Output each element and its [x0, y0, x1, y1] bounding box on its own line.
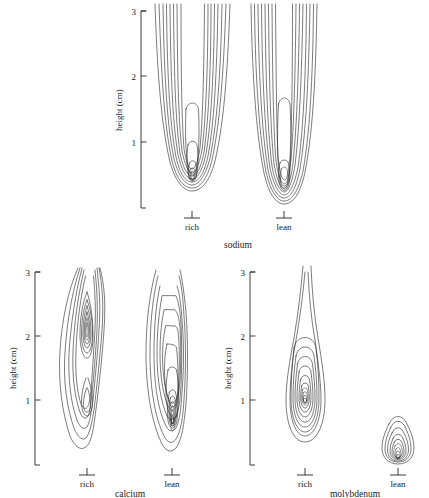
sodium-group-label-lean: lean: [277, 222, 292, 232]
calcium-lean-contours: [146, 270, 188, 451]
molybdenum-lean-contours: [382, 417, 414, 465]
calcium-ytick-label-3: 3: [26, 268, 31, 278]
calcium-y-axis-title: height (cm): [8, 347, 18, 389]
ytick-label-2: 2: [132, 72, 137, 82]
calcium-x-ticks: rich lean calcium: [79, 468, 180, 498]
panel-label-sodium: sodium: [224, 240, 253, 250]
panel-label-molybdenum: molybdenum: [330, 489, 381, 498]
ytick-label-1: 1: [132, 138, 137, 148]
panel-molybdenum: 3 2 1 height (cm): [223, 266, 414, 498]
molybdenum-ytick-label-2: 2: [241, 332, 246, 342]
molybdenum-ytick-label-1: 1: [241, 396, 246, 406]
y-axis-title: height (cm): [114, 89, 124, 131]
calcium-ytick-label-2: 2: [26, 332, 31, 342]
panel-label-calcium: calcium: [115, 489, 146, 498]
calcium-group-label-rich: rich: [80, 479, 94, 489]
ytick-label-3: 3: [132, 7, 137, 17]
panel-calcium: 3 2 1 height (cm): [8, 268, 188, 498]
molybdenum-rich-contours: [286, 266, 325, 442]
molybdenum-group-label-rich: rich: [298, 479, 312, 489]
contour-figure: 3 2 1 height (cm): [0, 0, 429, 498]
sodium-y-axis: 3 2 1 height (cm): [114, 7, 147, 209]
sodium-group-label-rich: rich: [185, 222, 199, 232]
calcium-rich-contours: [59, 268, 104, 449]
figure-svg: 3 2 1 height (cm): [0, 0, 429, 498]
sodium-x-ticks: rich lean sodium: [184, 211, 292, 250]
molybdenum-y-axis: 3 2 1 height (cm): [223, 268, 256, 466]
panel-sodium: 3 2 1 height (cm): [114, 4, 317, 250]
calcium-group-label-lean: lean: [165, 479, 180, 489]
sodium-lean-contours: [251, 4, 317, 204]
calcium-ytick-label-1: 1: [26, 396, 31, 406]
calcium-y-axis: 3 2 1 height (cm): [8, 268, 41, 466]
molybdenum-x-ticks: rich lean molybdenum: [297, 468, 406, 498]
molybdenum-y-axis-title: height (cm): [223, 347, 233, 389]
molybdenum-group-label-lean: lean: [391, 479, 406, 489]
sodium-rich-contours: [155, 4, 230, 191]
molybdenum-ytick-label-3: 3: [241, 268, 246, 278]
